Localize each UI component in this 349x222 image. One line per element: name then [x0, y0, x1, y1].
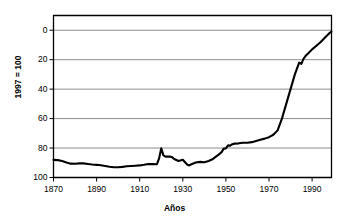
chart-container: 100806040200 187018901910193019501970199…: [0, 0, 349, 222]
y-tick-label: 60: [24, 113, 48, 123]
x-tick-label: 1930: [166, 184, 200, 194]
y-tick-label: 20: [24, 54, 48, 64]
y-tick-label: 100: [24, 172, 48, 182]
x-tick-label: 1990: [295, 184, 329, 194]
plot-frame: [54, 16, 332, 178]
x-tick-label: 1870: [37, 184, 71, 194]
x-axis-title: Años: [0, 203, 349, 213]
data-series-line: [54, 32, 332, 167]
x-tick-label: 1950: [209, 184, 243, 194]
y-tick-label: 0: [24, 25, 48, 35]
x-tick-label: 1910: [123, 184, 157, 194]
y-axis-title: 1997 = 100: [13, 37, 23, 117]
y-tick-label: 80: [24, 143, 48, 153]
axis-frame: [54, 16, 332, 178]
x-tick-label: 1890: [80, 184, 114, 194]
y-tick-label: 40: [24, 84, 48, 94]
x-tick-label: 1970: [252, 184, 286, 194]
